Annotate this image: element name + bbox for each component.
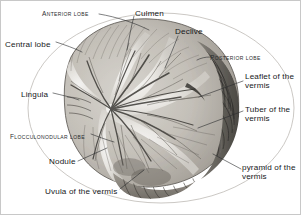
label-tuber-of-the-vermis: Tuber of the vermis [245, 105, 290, 124]
label-central-lobe: Central lobe [5, 40, 51, 49]
label-culmen: Culmen [135, 9, 164, 18]
label-flocculonodular-lobe: Flocculonodular lobe [10, 132, 85, 141]
cerebellum-body [64, 19, 241, 205]
label-nodule: Nodule [49, 157, 76, 166]
cerebellum-figure: Anterior lobe Central lobe Lingula Flocc… [0, 0, 301, 215]
label-leaflet-of-the-vermis: Leaflet of the vermis [245, 72, 294, 91]
label-uvula-of-the-vermis: Uvula of the vermis [45, 187, 117, 196]
label-posterior-lobe: Posterior lobe [210, 53, 261, 62]
label-declive: Declive [175, 27, 203, 36]
label-anterior-lobe: Anterior lobe [42, 9, 89, 18]
label-lingula: Lingula [21, 90, 48, 99]
label-pyramid-of-the-vermis: pyramid of the vermis [242, 163, 296, 182]
